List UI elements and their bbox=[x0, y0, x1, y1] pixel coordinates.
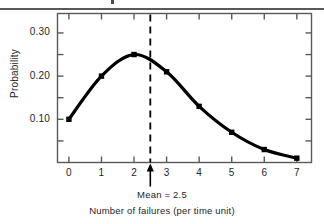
data-point-marker bbox=[294, 155, 299, 160]
arrow-head bbox=[147, 164, 154, 172]
y-tick-label: 0.20 bbox=[16, 70, 50, 81]
data-point-marker bbox=[99, 73, 104, 78]
y-tick-label: 0.10 bbox=[16, 113, 50, 124]
data-point-marker bbox=[229, 130, 234, 135]
x-tick-label: 6 bbox=[257, 167, 271, 178]
probability-curve bbox=[69, 54, 297, 158]
x-tick-label: 1 bbox=[94, 167, 108, 178]
mean-arrow-icon bbox=[147, 164, 154, 187]
x-tick-label: 4 bbox=[192, 167, 206, 178]
data-point-marker bbox=[66, 117, 71, 122]
y-tick-label: 0.30 bbox=[16, 26, 50, 37]
x-tick-label: 5 bbox=[225, 167, 239, 178]
chart-figure: Probability 0.100.200.30 01234567 Mean =… bbox=[0, 0, 324, 224]
data-point-marker bbox=[131, 52, 136, 57]
data-point-marker bbox=[164, 69, 169, 74]
x-tick-label: 2 bbox=[127, 167, 141, 178]
y-axis-ticks bbox=[58, 33, 312, 141]
x-tick-label: 0 bbox=[62, 167, 76, 178]
x-axis-title: Number of failures (per time unit) bbox=[0, 205, 324, 216]
x-tick-label: 7 bbox=[290, 167, 304, 178]
data-point-marker bbox=[196, 104, 201, 109]
mean-annotation-label: Mean = 2.5 bbox=[0, 189, 324, 200]
data-point-markers bbox=[66, 52, 299, 161]
x-tick-label: 3 bbox=[160, 167, 174, 178]
data-point-marker bbox=[262, 147, 267, 152]
